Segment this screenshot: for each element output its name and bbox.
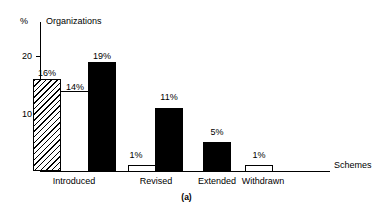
category-label-introduced: Introduced [39, 176, 109, 186]
bar-value-label: 5% [197, 127, 237, 137]
bar-value-label: 1% [239, 150, 279, 160]
bar-value-label: 16% [27, 68, 67, 78]
category-label-withdrawn: Withdrawn [228, 176, 298, 186]
y-axis-unit-label: % [20, 16, 28, 26]
y-tick-mark [36, 56, 41, 57]
chart-title: Organizations [46, 16, 102, 26]
bar-revised-solid [155, 108, 183, 171]
figure-caption: (a) [0, 192, 373, 202]
y-tick-label: 10 [10, 110, 32, 119]
bar-introduced-open [60, 91, 89, 172]
bar-introduced-solid [88, 62, 116, 171]
bar-value-label: 14% [55, 82, 95, 92]
bar-value-label: 19% [82, 51, 122, 61]
x-axis [40, 171, 330, 172]
bar-extended-solid [203, 142, 231, 171]
bar-introduced-hatched [33, 79, 61, 171]
bar-chart: % Organizations 1020 16%14%19%1%11%5%1% … [0, 0, 373, 215]
bar-value-label: 1% [116, 150, 156, 160]
x-axis-title: Schemes [334, 160, 372, 170]
bar-revised-open [128, 165, 156, 171]
bar-value-label: 11% [149, 92, 189, 102]
category-label-revised: Revised [121, 176, 191, 186]
y-tick-label: 20 [10, 52, 32, 61]
bar-withdrawn-open [245, 165, 273, 171]
